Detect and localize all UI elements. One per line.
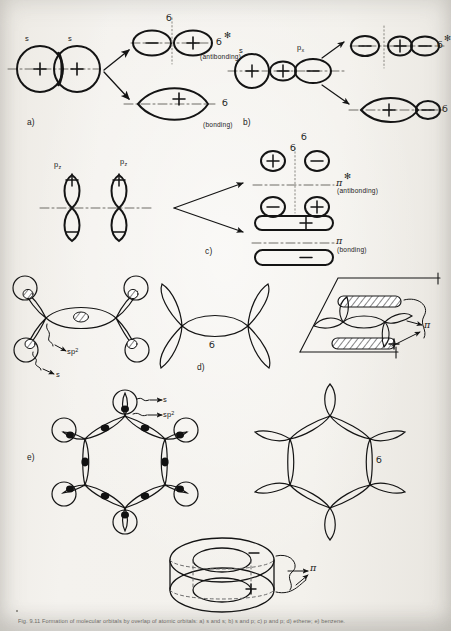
panel-c-bonding-note: (bonding) — [337, 247, 367, 254]
panel-b-drawing — [228, 26, 446, 122]
panel-d-sp2-label: sp2 — [67, 348, 79, 356]
panel-b-axis-symbol: б — [301, 132, 307, 142]
panel-b-star-icon: ✻ — [444, 34, 451, 42]
panel-c-orbital-label-right: pz — [120, 158, 127, 167]
panel-d-pi-symbol: π — [424, 320, 430, 330]
panel-a-orbital-label-right: s — [68, 35, 72, 43]
panel-a-sigma-symbol: б — [222, 98, 228, 108]
panel-c-drawing — [40, 148, 334, 265]
panel-d-left-drawing — [13, 276, 149, 374]
panel-a-star-icon: ✻ — [224, 31, 231, 39]
panel-b-orbital-label-s: s — [239, 47, 243, 55]
figure-drawing — [0, 0, 451, 631]
figure-caption: Fig. 9.11 Formation of molecular orbital… — [18, 618, 438, 624]
panel-a-orbital-label-left: s — [25, 35, 29, 43]
panel-a-node-axis-symbol: б — [166, 13, 172, 23]
panel-d-middle-drawing — [160, 284, 270, 368]
panel-d-sigma-symbol: б — [209, 340, 215, 350]
panel-d-label: d) — [197, 363, 205, 371]
panel-a-drawing — [8, 18, 215, 120]
panel-e-sigma-symbol: б — [376, 455, 382, 465]
panel-b-orbital-label-p: px — [297, 44, 304, 53]
panel-c-orbital-label-left: pz — [54, 161, 61, 170]
panel-e-left-drawing — [52, 390, 198, 534]
scan-speck — [16, 610, 18, 612]
panel-a-sigma-star-symbol: б — [216, 37, 222, 47]
panel-a-bonding-note: (bonding) — [203, 122, 233, 129]
pi-doughnut-drawing — [170, 538, 308, 612]
panel-e-label: e) — [27, 453, 35, 461]
panel-b-sigma-star-symbol: б — [437, 40, 443, 50]
panel-c-pi-symbol: π — [336, 236, 342, 246]
panel-d-s-label: s — [56, 371, 60, 379]
panel-c-label: c) — [205, 247, 212, 255]
panel-e-s-label: s — [163, 396, 167, 404]
panel-c-antibonding-note: (antibonding) — [337, 188, 378, 195]
panel-c-star-icon: ✻ — [344, 172, 351, 180]
panel-c-axis-symbol: б — [290, 143, 296, 153]
panel-b-sigma-symbol: б — [442, 104, 448, 114]
panel-e-right-drawing — [255, 384, 405, 540]
panel-b-label: b) — [243, 118, 251, 126]
panel-e-pi-symbol: π — [310, 563, 316, 573]
panel-a-antibonding-note: (antibonding) — [200, 54, 241, 61]
panel-d-right-drawing — [300, 273, 440, 358]
figure-page: s s б б ✻ (antibonding) б (bonding) a) s… — [0, 0, 451, 631]
panel-a-label: a) — [27, 118, 35, 126]
panel-e-sp2-label: sp2 — [163, 411, 175, 419]
